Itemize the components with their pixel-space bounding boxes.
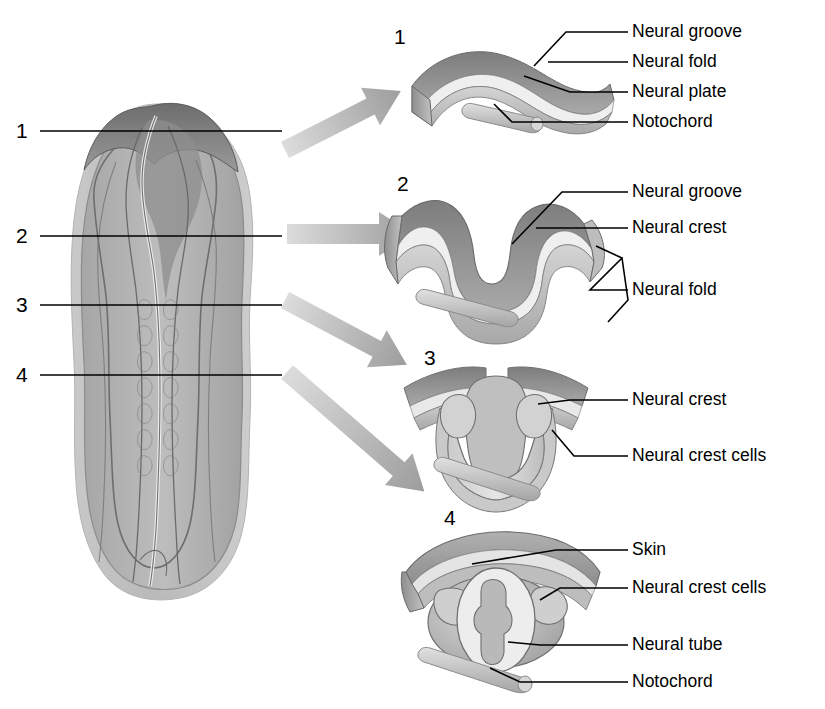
arrow-to-panel-3: [275, 281, 417, 383]
stage-arrows: [273, 72, 438, 507]
arrow-to-panel-1: [275, 72, 410, 168]
embryo-level-number-4: 4: [16, 364, 28, 385]
label-p4-neural-tube: Neural tube: [632, 636, 722, 654]
label-p1-notochord: Notochord: [632, 113, 713, 131]
label-p2-neural-fold: Neural fold: [632, 281, 717, 299]
panel-number-2: 2: [397, 173, 409, 194]
panel-2-illustration: [385, 201, 605, 344]
label-p4-neural-crest-cells: Neural crest cells: [632, 579, 766, 597]
label-p3-neural-crest: Neural crest: [632, 391, 726, 409]
label-p1-neural-groove: Neural groove: [632, 23, 742, 41]
label-p4-skin: Skin: [632, 541, 666, 559]
panel-number-1: 1: [394, 26, 406, 47]
leader-p3-neural-crest-cells: [552, 430, 628, 456]
label-p3-neural-crest-cells: Neural crest cells: [632, 447, 766, 465]
label-p4-notochord: Notochord: [632, 673, 713, 691]
panel-number-4: 4: [444, 507, 456, 528]
arrow-to-panel-4: [273, 356, 438, 507]
diagram-artwork: [0, 0, 825, 709]
leader-p1-neural-groove: [534, 32, 628, 66]
embryo-level-number-3: 3: [16, 294, 28, 315]
panel-number-3: 3: [424, 347, 436, 368]
embryo-illustration: [71, 103, 253, 600]
label-p1-neural-plate: Neural plate: [632, 83, 726, 101]
label-p1-neural-fold: Neural fold: [632, 53, 717, 71]
embryo-level-number-2: 2: [16, 225, 28, 246]
label-p2-neural-crest: Neural crest: [632, 219, 726, 237]
panel-4-illustration: [401, 532, 600, 693]
embryo-level-number-1: 1: [16, 120, 28, 141]
label-p2-neural-groove: Neural groove: [632, 183, 742, 201]
figure-canvas: 1 2 3 4 1 2 3 4 Neural groove Neural fol…: [0, 0, 825, 709]
